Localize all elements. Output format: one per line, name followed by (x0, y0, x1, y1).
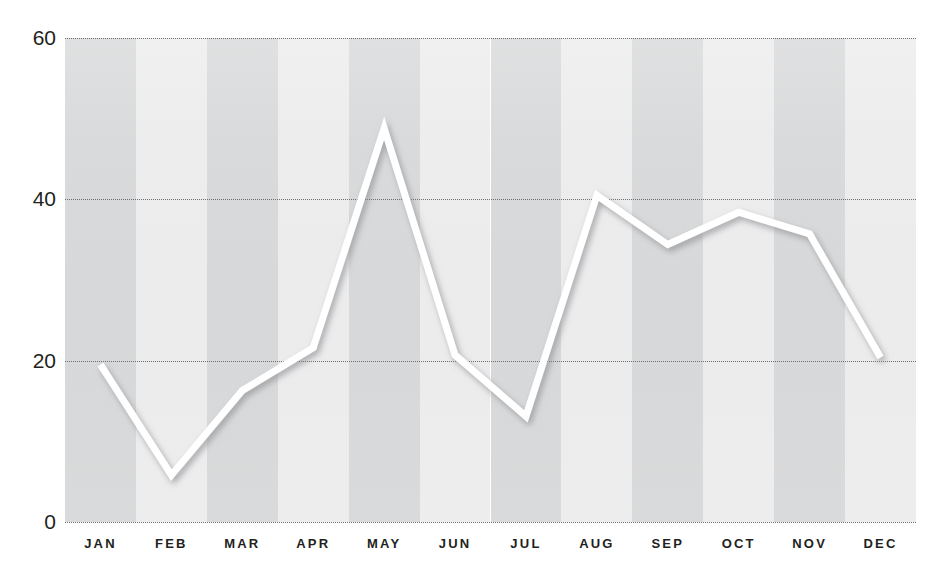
y-axis: 0204060 (0, 0, 56, 582)
x-axis-tick-label-dec: DEC (864, 536, 898, 551)
x-axis-tick-label-jan: JAN (84, 536, 117, 551)
x-axis-tick-label-jun: JUN (439, 536, 472, 551)
x-axis-tick-label-aug: AUG (579, 536, 615, 551)
x-axis-tick-label-nov: NOV (792, 536, 827, 551)
x-axis-tick-label-jul: JUL (510, 536, 541, 551)
plot-area (65, 38, 916, 522)
x-axis-tick-label-feb: FEB (155, 536, 188, 551)
y-axis-tick-label-0: 0 (10, 510, 56, 534)
x-axis-tick-label-mar: MAR (224, 536, 260, 551)
y-axis-tick-label-20: 20 (10, 349, 56, 373)
series-polyline (100, 128, 880, 475)
x-axis-tick-label-sep: SEP (651, 536, 684, 551)
gridline-0 (65, 522, 916, 523)
x-axis-tick-label-apr: APR (296, 536, 330, 551)
line-chart: 0204060 JANFEBMARAPRMAYJUNJULAUGSEPOCTNO… (0, 0, 931, 582)
x-axis-tick-label-oct: OCT (722, 536, 756, 551)
y-axis-tick-label-40: 40 (10, 187, 56, 211)
y-axis-tick-label-60: 60 (10, 26, 56, 50)
series-line (65, 38, 916, 522)
x-axis-tick-label-may: MAY (367, 536, 401, 551)
